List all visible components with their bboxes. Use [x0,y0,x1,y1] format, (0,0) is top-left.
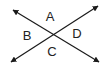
angle-label-b: B [23,29,32,42]
angle-label-a: A [46,10,55,23]
angle-label-c: C [47,45,56,58]
angle-label-d: D [72,27,81,40]
